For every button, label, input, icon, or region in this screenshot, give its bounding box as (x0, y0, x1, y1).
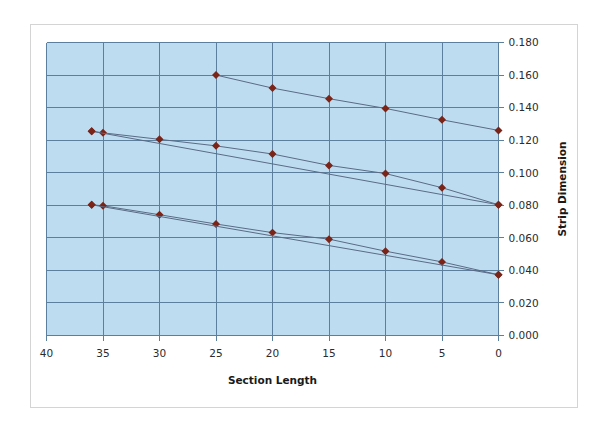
line-chart: 0.0000.0200.0400.0600.0800.1000.1200.140… (0, 0, 609, 431)
chart-svg: 0.0000.0200.0400.0600.0800.1000.1200.140… (0, 0, 609, 431)
x-axis-title: Section Length (228, 374, 317, 386)
x-tick-label: 15 (322, 347, 335, 359)
y-axis-title: Strip Dimension (556, 142, 568, 237)
x-tick-label: 5 (439, 347, 446, 359)
x-tick-label: 35 (96, 347, 109, 359)
y-tick-label: 0.080 (509, 199, 539, 211)
y-axis-tick-labels: 0.0000.0200.0400.0600.0800.1000.1200.140… (509, 36, 539, 341)
y-tick-label: 0.120 (509, 134, 539, 146)
x-tick-label: 10 (379, 347, 392, 359)
x-tick-label: 20 (266, 347, 279, 359)
y-tick-label: 0.000 (509, 329, 539, 341)
x-tick-label: 25 (209, 347, 222, 359)
y-tick-label: 0.060 (509, 232, 539, 244)
y-tick-label: 0.140 (509, 101, 539, 113)
x-tick-label: 40 (40, 347, 53, 359)
y-tick-label: 0.160 (509, 69, 539, 81)
x-axis-tick-labels: 4035302520151050 (40, 347, 502, 359)
x-tick-label: 0 (495, 347, 502, 359)
y-tick-label: 0.020 (509, 297, 539, 309)
y-tick-label: 0.100 (509, 167, 539, 179)
page-canvas: 0.0000.0200.0400.0600.0800.1000.1200.140… (0, 0, 609, 431)
y-tick-label: 0.040 (509, 264, 539, 276)
x-tick-label: 30 (153, 347, 166, 359)
y-tick-label: 0.180 (509, 36, 539, 48)
